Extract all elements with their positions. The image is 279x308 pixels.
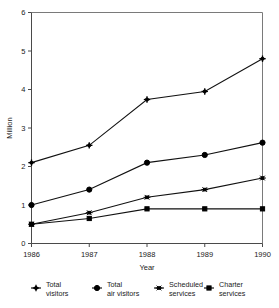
x-axis-tick-label: 1988 (139, 250, 156, 259)
y-axis-tick-label: 2 (21, 162, 25, 171)
data-point (144, 195, 151, 200)
data-point (145, 207, 149, 211)
data-point (202, 88, 208, 94)
legend-label-line2: services (169, 289, 196, 298)
data-point (87, 216, 91, 220)
marker-small-square (29, 222, 33, 226)
series-charter-services (29, 207, 264, 227)
data-point (260, 140, 265, 145)
y-axis-tick-label: 4 (21, 85, 25, 94)
marker-small-square (260, 207, 264, 211)
x-axis-tick-label: 1987 (81, 250, 98, 259)
series-polyline (32, 59, 263, 163)
legend-label-line1: Total (107, 280, 123, 289)
data-point (28, 159, 34, 165)
data-point (259, 56, 265, 62)
x-axis-title: Year (139, 263, 155, 272)
series-polyline (32, 178, 263, 224)
y-axis-tick-label: 0 (21, 239, 25, 248)
legend-label-line2: air visitors (107, 289, 140, 298)
legend-marker (94, 285, 99, 290)
legend-label-line1: Scheduled (169, 280, 203, 289)
data-point (87, 187, 92, 192)
legend-item-total-air-visitors[interactable]: Totalair visitors (92, 280, 140, 298)
marker-filled-circle (202, 152, 207, 157)
y-axis-tick-label: 1 (21, 201, 25, 210)
marker-filled-circle (87, 187, 92, 192)
y-axis-title: Million (5, 117, 14, 138)
y-axis-tick-label: 3 (21, 124, 25, 133)
marker-filled-circle (29, 202, 34, 207)
series-scheduled-services (28, 176, 266, 227)
chart-canvas: 012345619861987198819891990YearMillionTo… (0, 0, 279, 308)
data-point (86, 210, 93, 215)
data-point (203, 207, 207, 211)
legend-label-line1: Charter (219, 280, 244, 289)
y-axis-tick-label: 5 (21, 47, 25, 56)
legend-label-line1: Total (46, 280, 62, 289)
data-point (202, 152, 207, 157)
x-axis-tick-label: 1989 (196, 250, 213, 259)
data-point (29, 222, 33, 226)
marker-filled-circle (144, 160, 149, 165)
data-point (259, 176, 266, 181)
legend-label-line2: visitors (46, 289, 69, 298)
x-axis-tick-label: 1990 (254, 250, 271, 259)
line-chart-figure: 012345619861987198819891990YearMillionTo… (0, 0, 279, 308)
data-point (144, 160, 149, 165)
legend-item-scheduled-services[interactable]: Scheduledservices (154, 280, 203, 298)
legend-item-total-visitors[interactable]: Totalvisitors (31, 280, 69, 298)
data-point (29, 202, 34, 207)
legend-marker (33, 285, 39, 291)
legend-label-line2: services (219, 289, 246, 298)
x-axis-tick-label: 1986 (23, 250, 40, 259)
y-axis-tick-label: 6 (21, 8, 25, 17)
legend-marker (156, 286, 163, 291)
data-point (260, 207, 264, 211)
marker-filled-circle (260, 140, 265, 145)
marker-small-square (145, 207, 149, 211)
legend-marker (207, 286, 211, 290)
marker-small-square (203, 207, 207, 211)
marker-small-square (207, 286, 211, 290)
data-point (201, 187, 208, 192)
marker-small-square (87, 216, 91, 220)
legend-item-charter-services[interactable]: Charterservices (204, 280, 246, 298)
marker-filled-circle (94, 285, 99, 290)
